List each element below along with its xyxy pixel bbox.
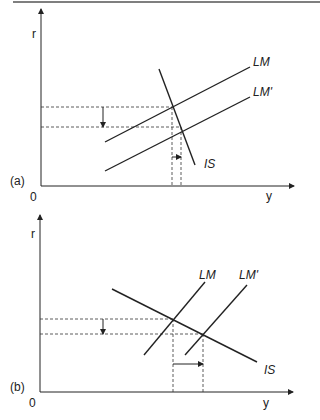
origin-label: 0 (29, 396, 36, 410)
lm-prime-curve (105, 97, 250, 171)
dashed-guides (40, 319, 203, 392)
is-lm-figure: r y 0 (a) LM LM' IS r y 0 (b) LM LM' (0, 0, 320, 420)
panel-a: r y 0 (a) LM LM' IS (10, 9, 294, 204)
lm-label: LM (253, 55, 270, 69)
y-axis-label: r (31, 227, 35, 241)
is-curve (112, 289, 257, 362)
is-label: IS (204, 157, 215, 171)
is-label: IS (264, 363, 275, 377)
panel-label: (b) (10, 380, 25, 394)
panel-b: r y 0 (b) LM LM' IS (10, 215, 293, 410)
dashed-guides (41, 107, 181, 186)
x-axis-label: y (263, 396, 269, 410)
lm-curve (105, 67, 250, 142)
lm-label: LM (199, 268, 216, 282)
panel-label: (a) (10, 174, 25, 188)
lm-prime-label: LM' (253, 85, 273, 99)
lm-curve (144, 282, 205, 355)
lm-prime-label: LM' (239, 268, 259, 282)
y-axis-label: r (32, 27, 36, 41)
origin-label: 0 (30, 190, 37, 204)
x-axis-label: y (266, 189, 272, 203)
is-curve (159, 69, 195, 165)
